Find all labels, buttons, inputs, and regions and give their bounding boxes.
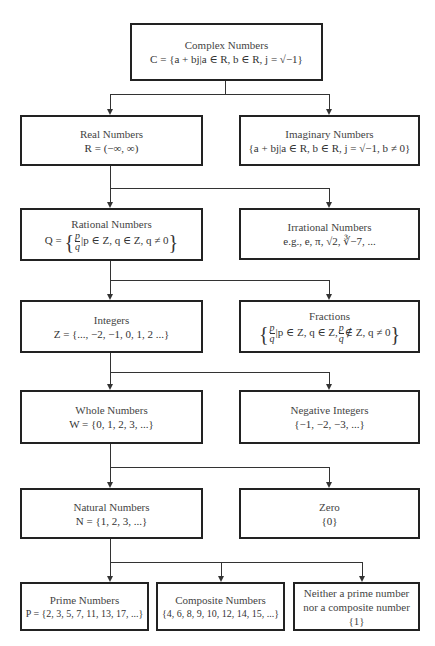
connector — [110, 188, 111, 202]
connector — [110, 94, 330, 95]
node-neither-prime-nor-composite: Neither a prime number nor a composite n… — [293, 582, 420, 631]
connector — [110, 467, 111, 482]
node-formula: nor a composite number {1} — [295, 600, 418, 628]
node-title: Imaginary Numbers — [285, 127, 373, 141]
formula-suffix: ∉ Z, q ≠ 0 — [345, 326, 391, 338]
node-prime-numbers: Prime Numbers P = {2, 3, 5, 7, 11, 13, 1… — [20, 582, 149, 631]
node-formula: e.g., e, π, √2, ∛−7, ... — [283, 234, 375, 248]
connector — [110, 280, 330, 281]
connector — [110, 467, 330, 468]
denominator: q — [270, 334, 275, 344]
node-rational-numbers: Rational Numbers Q = {pq|p ∈ Z, q ∈ Z, q… — [20, 208, 203, 261]
formula-suffix: |p ∈ Z, q ∈ Z, q ≠ 0 — [81, 234, 168, 246]
node-formula: Q = {pq|p ∈ Z, q ∈ Z, q ≠ 0} — [45, 231, 178, 252]
connector — [329, 188, 330, 202]
brace: } — [169, 231, 179, 253]
connector — [110, 562, 111, 576]
brace: } — [390, 323, 400, 345]
connector — [110, 372, 330, 373]
node-title: Natural Numbers — [73, 500, 149, 514]
node-formula: {0} — [321, 514, 337, 528]
node-complex-numbers: Complex Numbers C = {a + bj|a ∈ R, b ∈ R… — [130, 23, 323, 81]
connector — [110, 94, 111, 109]
connector — [329, 280, 330, 294]
node-formula: Z = {..., −2, −1, 0, 1, 2 ...} — [54, 327, 170, 341]
node-formula: {pq|p ∈ Z, q ∈ Z,pq∉ Z, q ≠ 0} — [259, 323, 400, 344]
node-title: Real Numbers — [80, 127, 143, 141]
fraction: pq — [339, 323, 344, 344]
connector — [110, 443, 111, 467]
node-title: Whole Numbers — [75, 403, 147, 417]
connector — [221, 562, 222, 576]
node-title: Fractions — [309, 309, 350, 323]
node-title: Prime Numbers — [50, 593, 119, 607]
node-formula: {4, 6, 8, 9, 10, 12, 14, 15, ...} — [162, 607, 279, 621]
formula-mid: |p ∈ Z, q ∈ Z, — [276, 326, 338, 338]
connector — [329, 467, 330, 482]
node-negative-integers: Negative Integers {−1, −2, −3, ...} — [239, 390, 420, 444]
node-formula: {a + bj|a ∈ R, b ∈ R, j = √−1, b ≠ 0} — [249, 141, 411, 155]
connector — [329, 372, 330, 384]
node-title: Complex Numbers — [185, 38, 268, 52]
node-formula: P = {2, 3, 5, 7, 11, 13, 17, ...} — [26, 607, 144, 621]
brace: { — [259, 323, 269, 345]
connector — [110, 372, 111, 384]
connector — [110, 562, 362, 563]
connector — [110, 165, 111, 188]
node-real-numbers: Real Numbers R = (−∞, ∞) — [20, 115, 203, 166]
node-irrational-numbers: Irrational Numbers e.g., e, π, √2, ∛−7, … — [239, 208, 420, 260]
connector — [110, 188, 330, 189]
connector — [110, 538, 111, 562]
node-title: Neither a prime number — [304, 586, 409, 600]
node-natural-numbers: Natural Numbers N = {1, 2, 3, ...} — [20, 488, 203, 539]
connector — [110, 280, 111, 294]
node-imaginary-numbers: Imaginary Numbers {a + bj|a ∈ R, b ∈ R, … — [239, 115, 420, 166]
connector — [362, 562, 363, 576]
brace: { — [64, 231, 74, 253]
node-title: Zero — [319, 500, 340, 514]
node-formula: C = {a + bj|a ∈ R, b ∈ R, j = √−1} — [150, 52, 303, 66]
node-title: Rational Numbers — [71, 217, 151, 231]
node-formula: N = {1, 2, 3, ...} — [76, 514, 147, 528]
node-formula: {−1, −2, −3, ...} — [294, 417, 364, 431]
node-whole-numbers: Whole Numbers W = {0, 1, 2, 3, ...} — [20, 390, 203, 444]
node-composite-numbers: Composite Numbers {4, 6, 8, 9, 10, 12, 1… — [156, 582, 285, 631]
node-title: Integers — [94, 313, 129, 327]
denominator: q — [339, 334, 344, 344]
formula-prefix: Q = — [45, 234, 65, 246]
node-integers: Integers Z = {..., −2, −1, 0, 1, 2 ...} — [20, 300, 203, 353]
node-title: Irrational Numbers — [288, 220, 372, 234]
node-title: Negative Integers — [291, 403, 369, 417]
fraction: pq — [270, 323, 275, 344]
node-title: Composite Numbers — [175, 593, 266, 607]
node-zero: Zero {0} — [239, 488, 420, 539]
denominator: q — [75, 242, 80, 252]
connector — [329, 94, 330, 109]
connector — [110, 260, 111, 280]
node-formula: W = {0, 1, 2, 3, ...} — [69, 417, 154, 431]
node-fractions: Fractions {pq|p ∈ Z, q ∈ Z,pq∉ Z, q ≠ 0} — [239, 300, 420, 353]
node-formula: R = (−∞, ∞) — [85, 141, 139, 155]
connector — [225, 80, 226, 94]
fraction: pq — [75, 231, 80, 252]
connector — [110, 352, 111, 372]
